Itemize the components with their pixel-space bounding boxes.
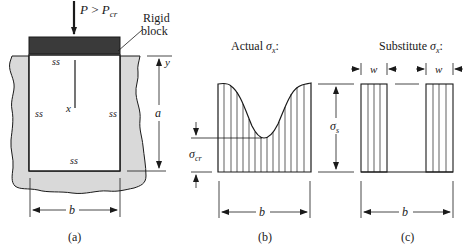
- edge-label-left: ss: [35, 108, 43, 119]
- y-axis-label: y: [164, 56, 170, 68]
- rigid-block: [29, 37, 120, 54]
- caption-b: (b): [258, 230, 272, 244]
- panel-b: Actual σx: σcr b: [189, 39, 311, 244]
- edge-label-right: ss: [109, 108, 117, 119]
- rigid-block-label-line2: block: [141, 24, 168, 38]
- load-label: P > Pcr: [79, 2, 118, 19]
- sigma-cr-label: σcr: [189, 147, 202, 163]
- dim-b-label-c: b: [402, 205, 408, 219]
- sigma-s-label: σs: [330, 119, 339, 135]
- panel-b-title: Actual σx:: [231, 39, 279, 55]
- dim-a-label: a: [155, 106, 161, 120]
- x-axis-label: x: [65, 102, 71, 114]
- edge-label-bottom: ss: [70, 155, 78, 166]
- caption-c: (c): [401, 230, 414, 244]
- dim-b-label: b: [69, 203, 75, 217]
- panel-c: Substitute σx: w w: [318, 39, 463, 244]
- substitute-block-right: [426, 84, 453, 172]
- dim-w-left-label: w: [370, 63, 378, 75]
- panel-a: P > Pcr Rigid block ss ss ss ss x a y b …: [10, 1, 172, 244]
- panel-c-title: Substitute σx:: [379, 39, 443, 55]
- rigid-block-label-line1: Rigid: [143, 11, 170, 25]
- rigid-block-leader: [118, 30, 142, 51]
- figure-canvas: P > Pcr Rigid block ss ss ss ss x a y b …: [0, 0, 467, 247]
- edge-label-top: ss: [52, 56, 60, 67]
- caption-a: (a): [68, 230, 81, 244]
- dim-w-right-label: w: [435, 63, 443, 75]
- dim-b-label-b: b: [259, 205, 265, 219]
